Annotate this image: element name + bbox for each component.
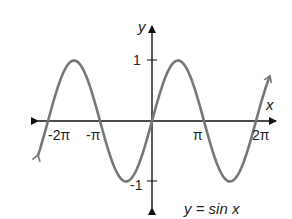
y-tick-label-neg1: -1 [130,177,143,193]
x-tick-label-2pi: 2π [252,127,270,143]
equation-label: y = sin x [183,200,240,217]
sine-graph: y x 1 -1 -2π -π π 2π y = sin x [0,0,292,219]
x-tick-label-neg-2pi: -2π [48,127,70,143]
y-tick-label-1: 1 [133,52,141,68]
x-tick-label-pi: π [193,127,203,143]
y-axis-label: y [137,18,147,35]
x-axis-label: x [265,96,274,113]
x-tick-label-neg-pi: -π [86,127,101,143]
